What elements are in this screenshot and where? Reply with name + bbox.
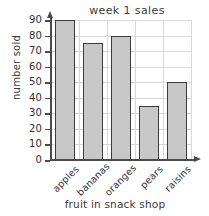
plot-area: [51, 20, 191, 160]
gridline-vertical: [135, 20, 136, 160]
y-tick-mark: [45, 129, 50, 131]
y-tick-label: 20: [20, 124, 42, 134]
y-tick-mark: [45, 144, 50, 146]
x-axis-arrow-icon: [194, 156, 201, 162]
x-category-label-raisins: raisins: [159, 164, 193, 198]
gridline-vertical: [79, 20, 80, 160]
y-tick-label: 50: [20, 77, 42, 87]
y-tick-mark: [45, 113, 50, 115]
gridline-vertical: [163, 20, 164, 160]
gridline-vertical: [191, 20, 192, 160]
y-tick-label: 30: [20, 108, 42, 118]
y-tick-label: 60: [20, 62, 42, 72]
y-tick-mark: [45, 160, 50, 162]
x-axis-line: [50, 159, 195, 161]
x-axis-title: fruit in snack shop: [30, 198, 200, 210]
y-tick-mark: [45, 51, 50, 53]
y-tick-label: 90: [20, 15, 42, 25]
bar-chart: week 1 sales number sold 010203040506070…: [0, 0, 209, 216]
bar-pears: [139, 106, 159, 160]
bar-raisins: [167, 82, 187, 160]
y-tick-mark: [45, 82, 50, 84]
y-tick-label: 0: [20, 155, 42, 165]
y-tick-mark: [45, 20, 50, 22]
y-tick-mark: [45, 36, 50, 38]
x-category-label-apples: apples: [47, 164, 81, 198]
y-axis-arrow-icon: [47, 11, 53, 18]
chart-title: week 1 sales: [52, 4, 202, 17]
y-axis-line: [50, 17, 52, 161]
x-category-label-bananas: bananas: [75, 164, 109, 198]
gridline-vertical: [107, 20, 108, 160]
y-tick-label: 40: [20, 93, 42, 103]
y-tick-label: 10: [20, 139, 42, 149]
bar-apples: [55, 20, 75, 160]
y-tick-mark: [45, 98, 50, 100]
y-tick-mark: [45, 67, 50, 69]
y-tick-label: 70: [20, 46, 42, 56]
bar-oranges: [111, 36, 131, 160]
y-tick-label: 80: [20, 31, 42, 41]
bar-bananas: [83, 43, 103, 160]
